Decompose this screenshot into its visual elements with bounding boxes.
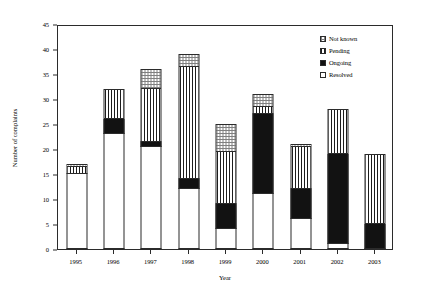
x-tick-mark [188, 250, 189, 254]
legend-item-ongoing[interactable]: Ongoing [320, 57, 357, 68]
bar-segment-pending [216, 152, 237, 205]
bar-1998 [178, 54, 199, 249]
legend-label: Not known [329, 35, 357, 42]
bar-segment-ongoing [253, 114, 274, 194]
bar-2003 [365, 154, 386, 249]
legend-item-resolved[interactable]: Resolved [320, 69, 357, 80]
bar-2000 [253, 94, 274, 249]
y-tick-label: 0 [46, 247, 49, 254]
bar-segment-pending [141, 89, 162, 142]
x-tick-label: 1998 [181, 259, 194, 266]
x-tick-label: 1996 [107, 259, 120, 266]
y-axis-title: Number of complaints [11, 78, 18, 198]
bar-segment-ongoing [328, 154, 349, 244]
y-tick-label: 5 [46, 222, 49, 229]
bar-segment-pending [365, 154, 386, 224]
bar-segment-resolved [66, 174, 87, 249]
x-tick-label: 1999 [219, 259, 232, 266]
bar-segment-not-known [178, 54, 199, 67]
y-tick-label: 25 [43, 122, 49, 129]
x-axis-title: Year [57, 274, 393, 281]
legend-label: Pending [329, 47, 350, 54]
bar-segment-pending [253, 107, 274, 115]
y-axis: Number of complaints 051015202530354045 [0, 25, 57, 250]
y-tick-label: 40 [43, 47, 49, 54]
x-tick-label: 2000 [256, 259, 269, 266]
bar-segment-not-known [253, 94, 274, 107]
x-tick-mark [374, 250, 375, 254]
bar-1995 [66, 164, 87, 249]
bar-segment-pending [290, 147, 311, 190]
bar-segment-resolved [328, 244, 349, 249]
x-tick-label: 2001 [293, 259, 306, 266]
x-tick-label: 1997 [144, 259, 157, 266]
bar-segment-resolved [253, 194, 274, 249]
x-tick-label: 2002 [331, 259, 344, 266]
bar-segment-resolved [290, 219, 311, 249]
legend-swatch-icon [320, 60, 326, 66]
x-tick-mark [225, 250, 226, 254]
chart-root: Number of complaints 051015202530354045 … [0, 0, 429, 307]
chart-legend: Not knownPendingOngoingResolved [318, 31, 360, 83]
y-tick-label: 35 [43, 72, 49, 79]
bar-segment-not-known [216, 124, 237, 152]
bar-segment-resolved [216, 229, 237, 249]
bar-segment-pending [328, 109, 349, 154]
x-tick-label: 1995 [69, 259, 82, 266]
bar-segment-ongoing [104, 119, 125, 134]
x-tick-mark [113, 250, 114, 254]
y-tick-label: 45 [43, 22, 49, 29]
x-axis: Year 19951996199719981999200020012002200… [57, 250, 393, 290]
bar-segment-resolved [141, 147, 162, 250]
bar-1997 [141, 69, 162, 249]
legend-item-not-known[interactable]: Not known [320, 33, 357, 44]
y-tick-label: 30 [43, 97, 49, 104]
bar-segment-pending [178, 67, 199, 180]
x-tick-mark [300, 250, 301, 254]
bar-segment-pending [104, 89, 125, 119]
bar-segment-ongoing [365, 224, 386, 249]
x-tick-mark [150, 250, 151, 254]
bar-1996 [104, 89, 125, 249]
bar-segment-not-known [141, 69, 162, 89]
bar-segment-resolved [178, 189, 199, 249]
legend-swatch-icon [320, 72, 326, 78]
x-tick-mark [337, 250, 338, 254]
legend-item-pending[interactable]: Pending [320, 45, 357, 56]
bar-segment-ongoing [178, 179, 199, 189]
x-tick-label: 2003 [368, 259, 381, 266]
legend-label: Resolved [329, 71, 352, 78]
y-tick-label: 20 [43, 147, 49, 154]
x-tick-mark [262, 250, 263, 254]
bar-1999 [216, 124, 237, 249]
bar-segment-ongoing [216, 204, 237, 229]
legend-swatch-icon [320, 48, 326, 54]
bar-2002 [328, 109, 349, 249]
bar-segment-ongoing [290, 189, 311, 219]
bar-segment-resolved [104, 134, 125, 249]
x-tick-mark [76, 250, 77, 254]
legend-label: Ongoing [329, 59, 351, 66]
y-tick-label: 10 [43, 197, 49, 204]
bar-2001 [290, 144, 311, 249]
bar-segment-pending [66, 167, 87, 175]
y-tick-label: 15 [43, 172, 49, 179]
legend-swatch-icon [320, 36, 326, 42]
